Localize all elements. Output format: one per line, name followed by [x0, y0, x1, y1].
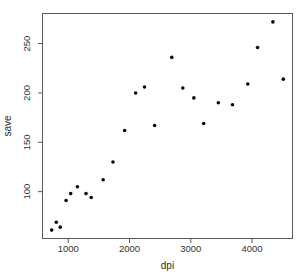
x-axis-ticks: 1000200030004000	[58, 239, 263, 255]
data-point	[64, 199, 68, 203]
data-points-group	[50, 20, 285, 232]
y-tick-label: 150	[21, 134, 32, 150]
data-point	[111, 160, 115, 164]
data-point	[143, 85, 147, 89]
scatter-figure: 1000200030004000 100150200250 dpi save	[0, 0, 302, 279]
data-point	[54, 220, 58, 224]
x-tick-label: 3000	[180, 243, 201, 254]
plot-box-border	[43, 14, 293, 239]
data-point	[282, 77, 286, 81]
data-point	[217, 101, 221, 105]
data-point	[246, 82, 250, 86]
data-point	[50, 228, 54, 232]
data-point	[58, 225, 62, 229]
data-point	[69, 192, 73, 196]
data-point	[170, 56, 174, 60]
y-axis-label: save	[2, 115, 13, 137]
y-tick-label: 100	[21, 184, 32, 200]
data-point	[76, 185, 80, 189]
data-point	[256, 46, 260, 50]
x-tick-label: 1000	[58, 243, 79, 254]
scatter-plot-canvas: 1000200030004000 100150200250 dpi save	[0, 0, 302, 279]
data-point	[153, 124, 157, 128]
data-point	[84, 192, 88, 196]
x-tick-label: 4000	[241, 243, 262, 254]
x-axis-label: dpi	[161, 260, 174, 271]
data-point	[181, 86, 185, 90]
data-point	[134, 91, 138, 95]
data-point	[192, 96, 196, 100]
x-tick-label: 2000	[119, 243, 140, 254]
y-tick-label: 250	[21, 36, 32, 52]
data-point	[231, 103, 235, 107]
data-point	[89, 196, 93, 200]
data-point	[101, 178, 105, 182]
data-point	[123, 129, 127, 133]
data-point	[202, 122, 206, 126]
data-point	[271, 20, 275, 24]
y-tick-label: 200	[21, 85, 32, 101]
y-axis-ticks: 100150200250	[21, 36, 43, 200]
